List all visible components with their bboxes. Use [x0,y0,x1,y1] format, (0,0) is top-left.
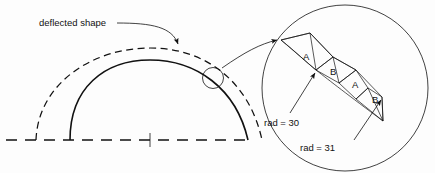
arch-diagram: deflected shape [0,0,435,173]
figure-canvas: deflected shape [0,0,435,173]
rad-30-pointer [290,73,315,113]
detail-marker-circle [203,68,224,89]
element-label-b2: B [372,94,378,105]
deflected-shape-leader [117,23,178,44]
finite-element-mesh: A B A B [281,33,383,121]
element-label-a2: A [352,79,359,90]
deflected-arch-curve [36,48,262,140]
detail-view-circle [262,5,428,171]
rad-30-label: rad = 30 [264,117,299,128]
element-label-b1: B [330,66,336,77]
rad-31-pointer [354,100,381,140]
baseline-centerline [6,133,250,147]
rad-31-label: rad = 31 [300,142,335,153]
deflected-shape-label: deflected shape [39,17,106,28]
element-label-a1: A [303,51,310,62]
detail-callout-connector [222,40,277,68]
